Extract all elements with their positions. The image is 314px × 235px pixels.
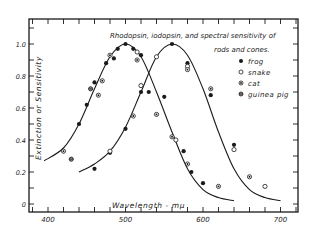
svg-text:frog: frog <box>248 58 264 66</box>
curve-rhodopsin <box>44 44 234 201</box>
legend: frogsnakecatguinea pig <box>239 58 289 99</box>
x-axis-label: Wavelength - mμ <box>112 201 185 210</box>
y-tick-label: 0.8 <box>16 73 26 81</box>
legend-item-guinea-pig: guinea pig <box>239 91 289 99</box>
legend-item-cat: cat <box>239 80 260 88</box>
x-tick-label: 500 <box>119 216 133 224</box>
chart: 400500600700 00.20.40.60.81.0 Rhodopsin,… <box>0 0 314 235</box>
y-tick-label: 0.4 <box>16 137 26 145</box>
chart-title-line-1: Rhodopsin, iodopsin, and spectral sensit… <box>110 32 277 40</box>
legend-item-snake: snake <box>239 69 271 77</box>
svg-text:snake: snake <box>248 69 271 77</box>
chart-title-line-2: rods and cones. <box>214 46 270 54</box>
y-axis-label: Extinction or Sensitivity <box>34 56 43 160</box>
x-tick-label: 400 <box>41 216 55 224</box>
data-points <box>61 42 267 189</box>
x-tick-label: 600 <box>196 216 210 224</box>
svg-text:guinea pig: guinea pig <box>248 91 289 99</box>
svg-text:cat: cat <box>248 80 260 88</box>
y-tick-label: 0.6 <box>16 105 26 113</box>
legend-item-frog: frog <box>239 58 264 66</box>
series-cat <box>61 53 251 188</box>
y-tick-label: 0 <box>22 201 26 209</box>
y-tick-label: 0.2 <box>16 169 26 177</box>
y-tick-label: 1.0 <box>16 41 26 49</box>
x-tick-label: 700 <box>274 216 288 224</box>
